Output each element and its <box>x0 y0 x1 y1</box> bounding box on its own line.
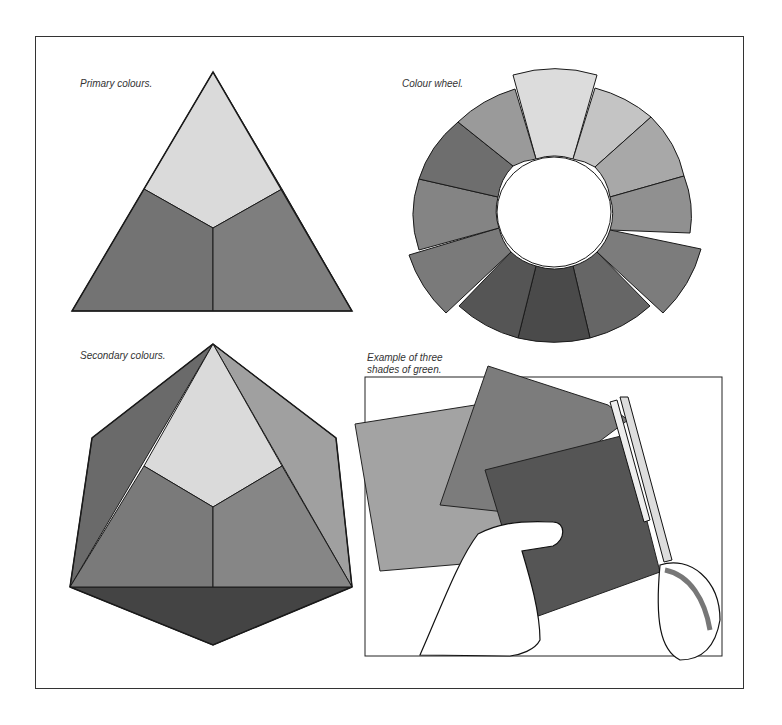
primary-colours-caption: Primary colours. <box>80 78 152 90</box>
green-shades-caption: Example of three shades of green. <box>367 352 443 376</box>
green-caption-line2: shades of green. <box>367 364 443 376</box>
primary-colours-triangle <box>72 72 352 311</box>
colour-wheel <box>409 69 701 342</box>
colour-wheel-caption: Colour wheel. <box>402 78 463 90</box>
green-caption-line1: Example of three <box>367 352 443 364</box>
secondary-colours-caption: Secondary colours. <box>80 350 166 362</box>
secondary-colours-shape <box>70 344 352 645</box>
green-shades-picture <box>355 366 722 660</box>
